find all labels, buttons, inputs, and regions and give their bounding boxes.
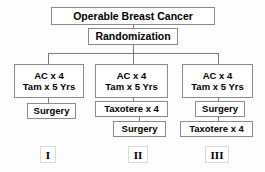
connector-bus-to-arm1 xyxy=(48,53,49,64)
arm2-numeral: II xyxy=(128,146,148,163)
node-arm2-regimen: AC x 4 Tam x 5 Yrs xyxy=(95,64,168,98)
node-randomization-label: Randomization xyxy=(95,30,170,42)
arm2-regimen-line2: Tam x 5 Yrs xyxy=(105,81,157,92)
arm2-step-1-label: Taxotere x 4 xyxy=(104,103,159,114)
arm3-step-1-label: Surgery xyxy=(202,103,238,114)
arm1-regimen-line2: Tam x 5 Yrs xyxy=(23,81,75,92)
arm2-step-2-label: Surgery xyxy=(122,123,158,134)
node-arm2-step-2: Surgery xyxy=(113,121,166,137)
node-arm3-regimen: AC x 4 Tam x 5 Yrs xyxy=(182,64,253,98)
node-arm3-step-1: Surgery xyxy=(195,101,245,117)
arm3-regimen-line2: Tam x 5 Yrs xyxy=(191,81,243,92)
connector-randomization-to-bus xyxy=(133,45,134,53)
connector-bus-to-arm3 xyxy=(218,53,219,64)
node-arm1-regimen: AC x 4 Tam x 5 Yrs xyxy=(14,64,84,98)
node-title-label: Operable Breast Cancer xyxy=(73,10,193,22)
node-operable-breast-cancer: Operable Breast Cancer xyxy=(51,7,215,25)
arm1-step-1-label: Surgery xyxy=(34,105,70,116)
arm3-numeral: III xyxy=(205,146,229,163)
arm1-regimen-line1: AC x 4 xyxy=(34,70,64,81)
arm1-numeral: I xyxy=(40,146,56,163)
node-arm1-step-1: Surgery xyxy=(27,103,76,119)
connector-bus-to-arm2 xyxy=(133,53,134,64)
arm2-regimen-line1: AC x 4 xyxy=(117,70,147,81)
arm3-regimen-line1: AC x 4 xyxy=(203,70,233,81)
node-randomization: Randomization xyxy=(88,28,178,45)
clinical-trial-flowchart: Operable Breast Cancer Randomization AC … xyxy=(0,0,265,172)
node-arm2-step-1: Taxotere x 4 xyxy=(95,101,168,117)
node-arm3-step-2: Taxotere x 4 xyxy=(180,121,253,137)
arm3-step-2-label: Taxotere x 4 xyxy=(189,123,244,134)
